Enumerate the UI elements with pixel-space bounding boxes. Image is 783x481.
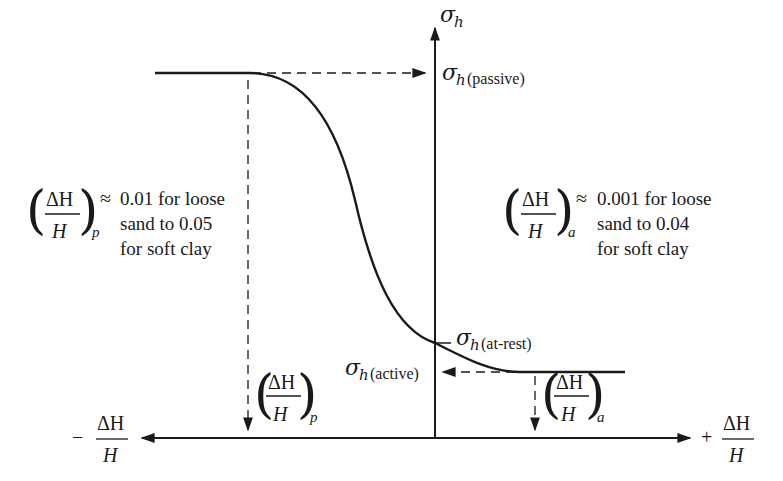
svg-text:≈: ≈ <box>576 187 587 209</box>
svg-text:(: ( <box>502 180 522 240</box>
active-strain-marker: ( ΔH H ) a <box>541 364 605 425</box>
svg-text:0.01 for loose: 0.01 for loose <box>120 188 225 209</box>
passive-strain-note: ( ΔH H ) p ≈ 0.01 for loose sand to 0.05… <box>26 180 225 259</box>
svg-text:p: p <box>309 409 318 425</box>
svg-text:ΔH: ΔH <box>268 371 295 393</box>
svg-text:−: − <box>72 426 83 448</box>
svg-text:+: + <box>701 426 712 448</box>
active-label: σ h (active) <box>345 355 419 384</box>
svg-text:0.001 for loose: 0.001 for loose <box>597 188 712 209</box>
svg-text:sand to 0.04: sand to 0.04 <box>597 213 690 234</box>
svg-text:ΔH: ΔH <box>46 188 73 210</box>
svg-text:ΔH: ΔH <box>522 188 549 210</box>
svg-text:H: H <box>51 220 68 242</box>
svg-text:(at-rest): (at-rest) <box>481 335 532 353</box>
svg-text:a: a <box>568 224 576 240</box>
earth-pressure-diagram: σ h σ h (passive) σ h (at-rest) σ h (act… <box>0 0 783 481</box>
active-strain-note: ( ΔH H ) a ≈ 0.001 for loose sand to 0.0… <box>502 180 712 259</box>
positive-axis-label: + ΔH H <box>701 412 754 466</box>
passive-strain-marker: ( ΔH H ) p <box>254 364 318 425</box>
svg-text:H: H <box>272 403 289 425</box>
svg-text:ΔH: ΔH <box>97 412 124 434</box>
svg-text:h: h <box>470 336 480 354</box>
negative-axis-label: − ΔH H <box>72 412 128 466</box>
svg-text:H: H <box>728 444 745 466</box>
svg-text:ΔH: ΔH <box>556 371 583 393</box>
svg-text:for soft clay: for soft clay <box>597 238 689 259</box>
svg-text:h: h <box>456 71 466 89</box>
svg-text:H: H <box>102 444 119 466</box>
svg-text:ΔH: ΔH <box>723 412 750 434</box>
at-rest-label: σ h (at-rest) <box>456 325 532 354</box>
svg-text:(active): (active) <box>370 365 419 383</box>
svg-text:h: h <box>359 366 369 384</box>
svg-text:a: a <box>597 409 605 425</box>
svg-text:(passive): (passive) <box>467 70 525 88</box>
passive-label: σ h (passive) <box>442 60 525 89</box>
svg-text:sand to 0.05: sand to 0.05 <box>120 213 212 234</box>
svg-text:≈: ≈ <box>100 187 111 209</box>
svg-text:for soft clay: for soft clay <box>120 238 212 259</box>
svg-text:H: H <box>560 403 577 425</box>
svg-text:p: p <box>91 224 100 240</box>
svg-text:H: H <box>527 220 544 242</box>
vertical-axis-label: σ h <box>440 2 464 31</box>
svg-text:h: h <box>454 13 464 31</box>
svg-text:(: ( <box>26 180 46 240</box>
